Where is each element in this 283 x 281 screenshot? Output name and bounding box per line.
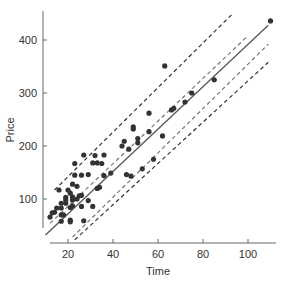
data-point — [95, 186, 100, 191]
data-point — [108, 170, 113, 175]
data-point — [131, 126, 136, 131]
x-tick-label: 80 — [197, 248, 209, 260]
data-point — [124, 172, 129, 177]
data-point — [189, 90, 194, 95]
data-point — [79, 193, 84, 198]
y-tick-label: 300 — [19, 87, 37, 99]
data-point — [135, 140, 140, 145]
data-point — [151, 157, 156, 162]
data-point — [169, 107, 174, 112]
data-point — [122, 139, 127, 144]
prediction-band-upper — [55, 14, 233, 190]
data-point — [101, 173, 106, 178]
x-tick-label: 20 — [62, 248, 74, 260]
data-point — [99, 161, 104, 166]
x-tick-label: 100 — [239, 248, 257, 260]
x-axis-label: Time — [146, 265, 170, 277]
data-point — [140, 166, 145, 171]
data-point — [90, 160, 95, 165]
y-tick-label: 400 — [19, 34, 37, 46]
data-point — [86, 172, 91, 177]
y-axis-label: Price — [4, 117, 16, 142]
data-point — [61, 212, 66, 217]
data-point — [79, 173, 84, 178]
regression-line — [46, 25, 269, 235]
x-tick-label: 40 — [107, 248, 119, 260]
data-point — [72, 161, 77, 166]
data-point — [68, 205, 73, 210]
data-point — [70, 182, 75, 187]
data-point — [160, 133, 165, 138]
data-point — [81, 152, 86, 157]
data-point — [86, 198, 91, 203]
data-point — [146, 129, 151, 134]
data-point — [56, 187, 61, 192]
y-tick-label: 100 — [19, 193, 37, 205]
data-point — [119, 143, 124, 148]
data-point — [47, 214, 52, 219]
data-point — [90, 204, 95, 209]
data-point — [81, 218, 86, 223]
data-point — [74, 196, 79, 201]
prediction-band-lower — [75, 62, 269, 240]
data-point — [63, 201, 68, 206]
data-point — [70, 197, 75, 202]
x-tick-label: 60 — [152, 248, 164, 260]
data-point — [59, 201, 64, 206]
scatter-chart: 10020030040020406080100 Time Price — [0, 0, 283, 281]
data-point — [72, 173, 77, 178]
data-point — [59, 219, 64, 224]
data-point — [92, 153, 97, 158]
data-point — [95, 160, 100, 165]
data-point — [59, 205, 64, 210]
data-point — [79, 204, 84, 209]
data-point — [74, 184, 79, 189]
confidence-band-lower — [73, 44, 269, 237]
plot-area — [46, 14, 274, 240]
data-point — [268, 18, 273, 23]
data-point — [146, 111, 151, 116]
data-point — [212, 77, 217, 82]
data-point — [162, 63, 167, 68]
data-point — [182, 99, 187, 104]
data-point — [68, 219, 73, 224]
y-tick-label: 200 — [19, 140, 37, 152]
data-point — [126, 147, 131, 152]
data-point — [128, 174, 133, 179]
data-point — [101, 152, 106, 157]
